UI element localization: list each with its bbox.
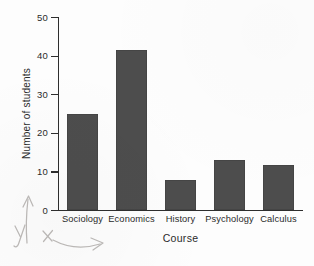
bar-sociology <box>67 114 97 211</box>
x-tick-label-sociology: Sociology <box>58 214 107 224</box>
plot-area: 50 40 30 20 10 0 Sociology Economics His… <box>0 0 314 266</box>
bar-economics <box>116 50 146 210</box>
bar-chart-figure: 50 40 30 20 10 0 Sociology Economics His… <box>0 0 314 266</box>
bar-calculus <box>263 165 293 210</box>
bar-history <box>165 180 195 210</box>
y-tick-mark-20 <box>51 133 58 134</box>
y-axis-title: Number of students <box>21 44 32 184</box>
y-tick-mark-50 <box>51 17 58 18</box>
y-tick-mark-40 <box>51 56 58 57</box>
y-axis-line <box>58 17 59 211</box>
bar-psychology <box>214 160 244 210</box>
x-tick-label-psychology: Psychology <box>205 214 254 224</box>
y-tick-label-0: 0 <box>8 206 48 216</box>
y-tick-mark-30 <box>51 94 58 95</box>
y-tick-mark-0 <box>51 210 58 211</box>
x-tick-label-calculus: Calculus <box>254 214 303 224</box>
x-tick-label-economics: Economics <box>107 214 156 224</box>
x-tick-label-history: History <box>156 214 205 224</box>
y-tick-mark-10 <box>51 171 58 172</box>
y-tick-label-50: 50 <box>8 13 48 23</box>
x-axis-title: Course <box>58 232 303 244</box>
